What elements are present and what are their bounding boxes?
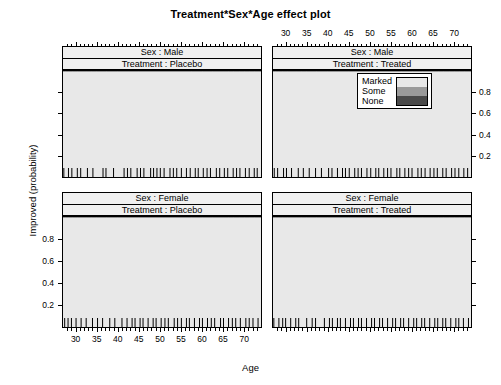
x-tick-label: 65 (428, 28, 437, 38)
legend-label-none: None (362, 96, 392, 106)
y-tick-label: 0.8 (34, 234, 54, 244)
panel-male-placebo (62, 70, 262, 178)
x-tick-label: 45 (134, 334, 143, 344)
legend-swatch-some (397, 87, 427, 96)
legend-labels: MarkedSomeNone (362, 76, 392, 106)
y-tick-label: 0.4 (34, 278, 54, 288)
panel-strip-male-placebo-sex: Sex : Male (62, 46, 262, 58)
panel-strip-female-placebo-sex: Sex : Female (62, 192, 262, 204)
panel-strip-female-treated-treatment: Treatment : Treated (272, 204, 472, 216)
x-tick-label: 35 (302, 28, 311, 38)
panel-strip-female-placebo-treatment: Treatment : Placebo (62, 204, 262, 216)
legend-label-marked: Marked (362, 76, 392, 86)
x-tick-label: 30 (71, 334, 80, 344)
x-tick-label: 50 (365, 28, 374, 38)
area-band-marked (63, 217, 261, 327)
x-tick-label: 30 (281, 28, 290, 38)
y-axis-male-treated (472, 70, 476, 178)
x-axis-female-placebo (62, 328, 262, 333)
page-title: Treatment*Sex*Age effect plot (0, 8, 501, 20)
y-axis-female-treated (472, 216, 476, 328)
x-axis-male-placebo (62, 41, 262, 46)
legend-label-some: Some (362, 86, 392, 96)
x-tick-label: 65 (218, 334, 227, 344)
legend-swatches (396, 77, 428, 106)
y-tick-label: 0.2 (479, 151, 491, 161)
x-tick-label: 50 (155, 334, 164, 344)
panel-strip-male-treated-sex: Sex : Male (272, 46, 472, 58)
x-axis-male-treated (272, 41, 472, 46)
x-tick-label: 40 (323, 28, 332, 38)
y-axis-female-placebo (58, 216, 62, 328)
panel-female-treated (272, 216, 472, 328)
panel-strip-male-placebo-treatment: Treatment : Placebo (62, 58, 262, 70)
panel-strip-female-treated-sex: Sex : Female (272, 192, 472, 204)
legend-swatch-marked (397, 78, 427, 87)
panel-strip-male-treated-treatment: Treatment : Treated (272, 58, 472, 70)
x-tick-label: 60 (407, 28, 416, 38)
y-tick-label: 0.2 (34, 300, 54, 310)
x-tick-label: 60 (197, 334, 206, 344)
area-band-marked (273, 217, 471, 327)
x-tick-label: 45 (344, 28, 353, 38)
x-tick-label: 70 (239, 334, 248, 344)
x-axis-female-treated (272, 328, 472, 333)
panel-female-placebo (62, 216, 262, 328)
y-tick-label: 0.6 (34, 256, 54, 266)
legend-swatch-none (397, 96, 427, 105)
x-tick-label: 35 (92, 334, 101, 344)
y-axis-male-placebo (58, 70, 62, 178)
y-tick-label: 0.8 (479, 87, 491, 97)
x-tick-label: 55 (386, 28, 395, 38)
x-tick-label: 40 (113, 334, 122, 344)
rug-marks (64, 168, 257, 177)
area-band-marked (63, 71, 261, 177)
y-tick-label: 0.6 (479, 108, 491, 118)
x-tick-label: 70 (449, 28, 458, 38)
legend: MarkedSomeNone (357, 73, 432, 109)
x-tick-label: 55 (176, 334, 185, 344)
effect-plot-figure: Treatment*Sex*Age effect plot Improved (… (0, 0, 501, 385)
y-tick-label: 0.4 (479, 130, 491, 140)
x-axis-label: Age (0, 362, 501, 373)
